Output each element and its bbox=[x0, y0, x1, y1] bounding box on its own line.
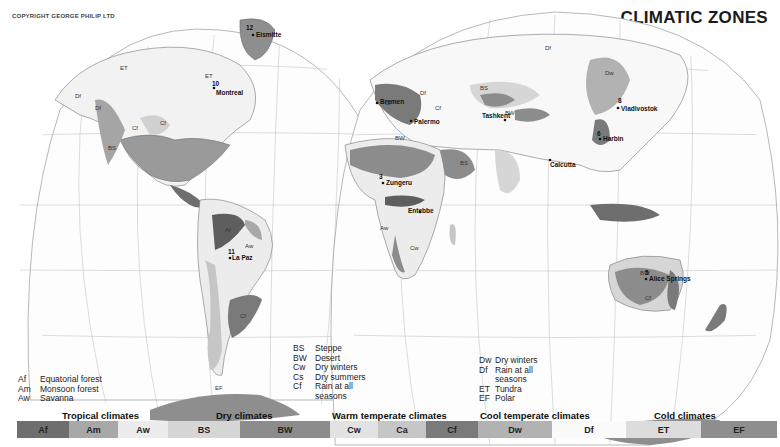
svg-text:BS: BS bbox=[108, 145, 116, 151]
svg-text:Cf: Cf bbox=[160, 120, 166, 126]
legend-seg-af: Af bbox=[17, 421, 69, 438]
legend-seg-et: ET bbox=[626, 421, 701, 438]
city-entebbe: Entebbe bbox=[408, 207, 434, 214]
svg-text:11: 11 bbox=[228, 248, 235, 255]
svg-text:BW: BW bbox=[395, 135, 405, 141]
svg-text:ET: ET bbox=[205, 73, 213, 79]
city-eismitte: Eismitte bbox=[256, 31, 282, 38]
svg-text:10: 10 bbox=[212, 80, 220, 87]
city-alice-springs: Alice Springs bbox=[649, 275, 691, 283]
eastern-hemisphere-lobe: DfDwDf BSCfCf BWBSCf BWAwCw EFBW Bremen … bbox=[331, 12, 780, 445]
key-tropical: AfEquatorial forest AmMonsoon forest AwS… bbox=[18, 375, 102, 404]
svg-text:6: 6 bbox=[597, 130, 601, 137]
key-dry-warm: BSSteppe BWDesert CwDry winters CsDry su… bbox=[293, 344, 366, 401]
svg-text:BS: BS bbox=[480, 85, 488, 91]
legend-seg-cw: Cw bbox=[330, 421, 378, 438]
svg-text:ET: ET bbox=[120, 65, 128, 71]
svg-text:Af: Af bbox=[225, 227, 231, 233]
legend-group-dry: Dry climates bbox=[216, 410, 273, 421]
svg-text:Cf: Cf bbox=[435, 105, 441, 111]
legend-group-warm-temperate: Warm temperate climates bbox=[332, 410, 447, 421]
svg-text:Df: Df bbox=[95, 105, 101, 111]
legend-seg-bs: BS bbox=[168, 421, 240, 438]
city-vladivostok: Vladivostok bbox=[621, 105, 658, 112]
legend-seg-df: Df bbox=[552, 421, 626, 438]
city-calcutta: Calcutta bbox=[550, 161, 576, 168]
legend-group-tropical: Tropical climates bbox=[62, 410, 139, 421]
legend-group-cold: Cold climates bbox=[654, 410, 716, 421]
svg-text:Cf: Cf bbox=[645, 295, 651, 301]
svg-text:5: 5 bbox=[645, 269, 649, 276]
city-harbin: Harbin bbox=[603, 135, 624, 142]
key-cool-cold: DwDry winters DfRain at all seasons ETTu… bbox=[479, 356, 538, 404]
legend-group-cool-temperate: Cool temperate climates bbox=[480, 410, 590, 421]
svg-text:8: 8 bbox=[618, 97, 622, 104]
svg-text:BS: BS bbox=[460, 160, 468, 166]
legend-seg-dw: Dw bbox=[478, 421, 552, 438]
svg-text:Df: Df bbox=[75, 93, 81, 99]
legend-seg-ca: Ca bbox=[378, 421, 426, 438]
svg-text:Df: Df bbox=[545, 45, 551, 51]
city-tashkent: Tashkent bbox=[482, 112, 511, 119]
world-map: ETDfDf ETCfBS CfCfAw AfEF Eismitte 12 Mo… bbox=[0, 0, 780, 447]
city-la-paz: La Paz bbox=[232, 254, 253, 261]
legend-seg-bw: BW bbox=[240, 421, 330, 438]
svg-text:12: 12 bbox=[246, 24, 254, 31]
svg-text:Df: Df bbox=[420, 90, 426, 96]
svg-text:Aw: Aw bbox=[245, 243, 254, 249]
svg-text:Dw: Dw bbox=[605, 70, 614, 76]
legend-seg-ef: EF bbox=[701, 421, 777, 438]
svg-text:Aw: Aw bbox=[380, 225, 389, 231]
svg-text:3: 3 bbox=[379, 173, 383, 180]
legend-seg-cf: Cf bbox=[426, 421, 478, 438]
city-bremen: Bremen bbox=[380, 98, 404, 105]
svg-text:EF: EF bbox=[215, 385, 223, 391]
city-montreal: Montreal bbox=[216, 89, 243, 96]
svg-text:Cf: Cf bbox=[132, 125, 138, 131]
svg-text:Cw: Cw bbox=[410, 245, 419, 251]
city-zungeru: Zungeru bbox=[386, 179, 412, 187]
svg-text:Cf: Cf bbox=[240, 313, 246, 319]
legend-seg-am: Am bbox=[69, 421, 118, 438]
legend-bar: Af Am Aw BS BW Cw Ca Cf Dw Df ET EF bbox=[17, 421, 777, 438]
city-palermo: Palermo bbox=[414, 118, 440, 125]
legend-seg-aw: Aw bbox=[118, 421, 168, 438]
